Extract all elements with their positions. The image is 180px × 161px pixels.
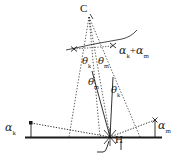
alpha-k-ray bbox=[31, 123, 110, 137]
tick-left-marker bbox=[29, 121, 33, 125]
label-alpha-k: αk bbox=[5, 122, 16, 136]
theta-sub: m bbox=[94, 83, 99, 90]
theta-sub: k bbox=[117, 91, 120, 98]
label-alpha-k-plus-alpha-m: αk+αm bbox=[119, 45, 149, 59]
label-alpha-m: αm bbox=[158, 120, 171, 134]
alpha-sub-k: k bbox=[126, 52, 129, 59]
base-hook bbox=[97, 141, 109, 152]
geometry-diagram: C H αk+αm θk θm θm θk αk αm bbox=[0, 0, 180, 161]
alpha-sub-m: m bbox=[144, 52, 149, 59]
label-base-H: H bbox=[115, 134, 123, 145]
label-theta-k-upper: θk bbox=[82, 56, 91, 68]
arc-chord bbox=[74, 46, 113, 49]
arc-marker-right bbox=[110, 43, 116, 48]
apex-ray-group bbox=[69, 17, 140, 137]
label-apex-C: C bbox=[80, 3, 87, 14]
label-theta-k-lower: θk bbox=[111, 85, 120, 97]
theta-sub: k bbox=[88, 62, 91, 69]
label-theta-m-upper: θm bbox=[98, 56, 109, 68]
label-theta-m-lower: θm bbox=[88, 77, 99, 89]
alpha-sub: m bbox=[165, 127, 170, 134]
apex-ray-left bbox=[69, 17, 89, 137]
apex-tick bbox=[90, 14, 93, 19]
theta-sub: m bbox=[104, 62, 109, 69]
alpha-glyph-2: α bbox=[136, 44, 143, 57]
alpha-sub: k bbox=[12, 129, 15, 136]
